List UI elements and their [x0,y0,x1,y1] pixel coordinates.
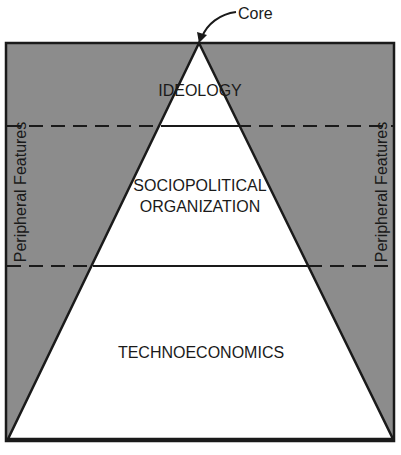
core-arrow [197,12,236,43]
layer-label-technoeconomics: TECHNOECONOMICS [118,344,284,361]
layer-label-sociopolitical-line1: SOCIOPOLITICAL [133,177,266,194]
layer-label-ideology: IDEOLOGY [158,82,242,99]
side-label-left: Peripheral Features [12,122,29,263]
side-label-right: Peripheral Features [373,122,390,263]
core-label: Core [238,5,273,22]
layer-label-sociopolitical-line2: ORGANIZATION [140,198,261,215]
pyramid-diagram: Core IDEOLOGY SOCIOPOLITICAL ORGANIZATIO… [0,0,401,455]
core-arrow-curve [202,12,236,37]
